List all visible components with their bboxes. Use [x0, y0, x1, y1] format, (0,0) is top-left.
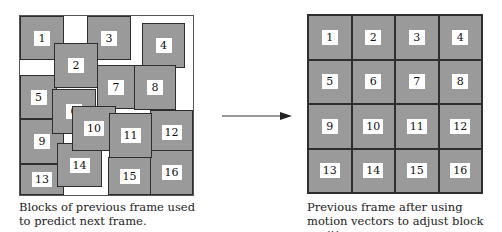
block-label: 8 [147, 80, 163, 95]
block-label: 8 [452, 74, 468, 89]
grid-block-2: 2 [352, 15, 396, 60]
block-label: 9 [322, 119, 338, 134]
grid-block-4: 4 [439, 15, 483, 60]
arrow-right-icon [222, 111, 292, 121]
grid-block-13: 13 [308, 149, 352, 194]
grid-block-11: 11 [395, 104, 439, 149]
block-label: 3 [409, 30, 425, 45]
grid-block-1: 1 [308, 15, 352, 60]
block-label: 15 [120, 169, 140, 184]
block-label: 16 [162, 165, 182, 180]
displaced-block-12: 12 [150, 110, 193, 154]
grid-block-6: 6 [352, 60, 396, 105]
block-label: 7 [409, 74, 425, 89]
block-label: 11 [121, 128, 141, 143]
block-label: 10 [363, 119, 383, 134]
block-label: 1 [322, 30, 338, 45]
displaced-block-15: 15 [108, 157, 151, 195]
grid-block-8: 8 [439, 60, 483, 105]
grid-block-9: 9 [308, 104, 352, 149]
displaced-block-11: 11 [109, 113, 152, 158]
block-label: 13 [320, 163, 340, 178]
block-label: 14 [363, 163, 383, 178]
block-label: 3 [101, 31, 117, 46]
block-label: 7 [108, 80, 124, 95]
block-label: 2 [68, 58, 84, 73]
right-block-grid: 12345678910111213141516 [307, 14, 483, 194]
displaced-block-16: 16 [150, 150, 193, 195]
block-label: 4 [452, 30, 468, 45]
block-label: 10 [84, 121, 104, 136]
block-label: 4 [156, 38, 172, 53]
block-label: 9 [34, 134, 50, 149]
block-label: 11 [407, 119, 427, 134]
grid-block-14: 14 [352, 149, 396, 194]
grid-block-16: 16 [439, 149, 483, 194]
grid-block-5: 5 [308, 60, 352, 105]
displaced-block-8: 8 [134, 65, 176, 110]
grid-block-12: 12 [439, 104, 483, 149]
displaced-block-4: 4 [142, 23, 185, 68]
displaced-block-7: 7 [97, 65, 135, 109]
block-label: 15 [407, 163, 427, 178]
block-label: 5 [31, 90, 47, 105]
block-label: 12 [162, 125, 182, 140]
block-label: 5 [322, 74, 338, 89]
grid-block-15: 15 [395, 149, 439, 194]
grid-block-7: 7 [395, 60, 439, 105]
block-label: 6 [365, 74, 381, 89]
grid-block-10: 10 [352, 104, 396, 149]
displaced-block-2: 2 [54, 43, 98, 88]
block-label: 16 [450, 163, 470, 178]
block-label: 12 [450, 119, 470, 134]
block-label: 13 [32, 172, 52, 187]
block-label: 14 [70, 158, 90, 173]
left-caption: Blocks of previous frame used to predict… [19, 200, 199, 228]
block-label: 2 [365, 30, 381, 45]
right-caption: Previous frame after using motion vector… [307, 200, 497, 232]
block-label: 1 [34, 31, 50, 46]
grid-block-3: 3 [395, 15, 439, 60]
